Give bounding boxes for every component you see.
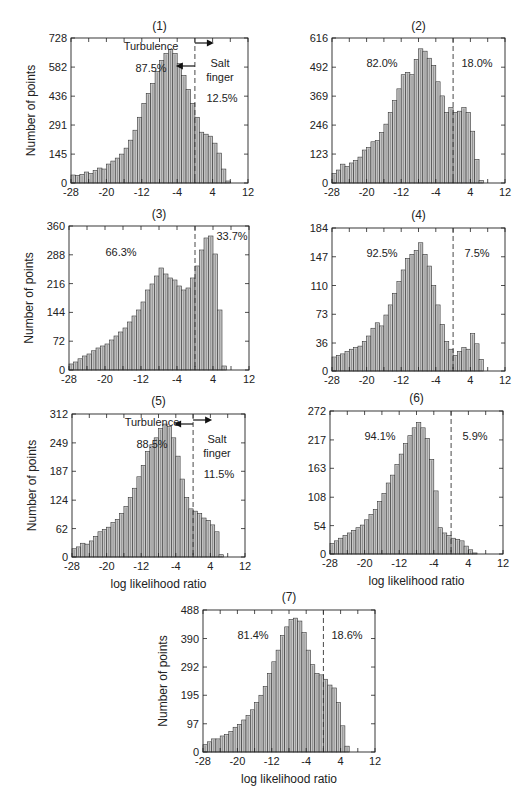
y-tick-label: 728 [49,32,67,44]
left-percent-label: 92.5% [366,247,397,259]
x-tick-label: 4 [210,373,216,385]
x-tick-label: -12 [264,755,280,767]
y-tick-label: 184 [310,222,328,234]
histogram-panel-7: -28-20-12-4412097195292390488(7)Number o… [156,590,381,786]
y-tick-label: 0 [61,177,67,189]
x-tick-label: -20 [98,186,114,198]
figure-canvas: -28-20-12-44120145291436582728(1)Number … [0,0,530,812]
histogram-panel-1: -28-20-12-44120145291436582728(1)Number … [24,19,254,198]
salt-label: Salt [208,433,227,445]
x-tick-label: -12 [133,373,149,385]
y-tick-label: 123 [310,148,328,160]
y-tick-label: 187 [50,465,68,477]
x-tick-label: 4 [467,374,473,386]
y-tick-label: 36 [316,337,328,349]
x-tick-label: 12 [369,755,381,767]
x-tick-label: 12 [497,557,509,569]
y-tick-label: 0 [322,365,328,377]
y-axis-label: Number of points [25,440,39,531]
y-tick-label: 62 [56,523,68,535]
turbulence-label: Turbulence [125,416,180,428]
y-tick-label: 312 [50,408,68,420]
y-tick-label: 360 [47,220,65,232]
y-tick-label: 249 [50,437,68,449]
right-arrow-icon [205,417,212,424]
salt-finger-percent: 11.5% [204,468,235,480]
x-tick-label: -20 [359,186,375,198]
y-tick-label: 246 [310,119,328,131]
y-tick-label: 0 [320,548,326,560]
x-tick-label: 4 [338,755,344,767]
turbulence-percent: 87.5% [135,62,166,74]
histogram-panel-4: -28-20-12-441203673110147184(4)92.5%7.5% [310,208,511,386]
histogram-bars [69,236,227,370]
y-tick-label: 488 [181,604,199,616]
x-tick-label: 4 [467,186,473,198]
turbulence-percent: 88.5% [136,438,167,450]
y-tick-label: 147 [310,251,328,263]
salt-finger-percent: 12.5% [206,92,237,104]
x-tick-label: 12 [242,186,254,198]
y-tick-label: 369 [310,90,328,102]
y-tick-label: 195 [181,689,199,701]
x-tick-label: 4 [207,560,213,572]
y-tick-label: 72 [53,335,65,347]
y-tick-label: 292 [181,661,199,673]
y-tick-label: 0 [193,746,199,758]
y-tick-label: 110 [310,280,328,292]
x-tick-label: 4 [210,186,216,198]
y-tick-label: 291 [49,119,67,131]
right-percent-label: 33.7% [216,230,247,242]
y-tick-label: 124 [50,494,68,506]
x-tick-label: 4 [465,557,471,569]
histogram-panel-6: -28-20-12-4412054108163217272(6)log like… [308,391,509,588]
x-tick-label: -12 [391,557,407,569]
x-tick-label: -4 [431,374,441,386]
y-axis-label: Number of points [156,635,170,726]
x-tick-label: -4 [171,560,181,572]
y-tick-label: 54 [314,520,326,532]
y-tick-label: 0 [322,177,328,189]
y-tick-label: 97 [187,718,199,730]
y-tick-label: 108 [308,491,326,503]
right-percent-label: 7.5% [464,247,489,259]
x-tick-label: -4 [431,186,441,198]
finger-label: finger [206,71,234,83]
y-tick-label: 272 [308,405,326,417]
histogram-bars [330,423,477,554]
left-percent-label: 81.4% [237,629,268,641]
right-percent-label: 5.9% [462,430,487,442]
y-axis-label: Number of points [22,252,36,343]
x-tick-label: 12 [239,560,251,572]
y-tick-label: 390 [181,633,199,645]
x-tick-label: -4 [429,557,439,569]
y-tick-label: 288 [47,249,65,261]
left-percent-label: 82.0% [366,57,397,69]
panel-title: (3) [152,207,167,221]
y-tick-label: 0 [59,364,65,376]
histogram-bars [332,243,483,371]
panel-title: (6) [409,391,424,405]
panel-title: (4) [411,208,426,222]
y-tick-label: 616 [310,32,328,44]
right-percent-label: 18.0% [461,57,492,69]
y-tick-label: 145 [49,148,67,160]
x-axis-label: log likelihood ratio [241,772,337,786]
y-tick-label: 582 [49,61,67,73]
y-tick-label: 216 [47,278,65,290]
salt-label: Salt [211,57,230,69]
y-tick-label: 73 [316,308,328,320]
left-percent-label: 66.3% [105,246,136,258]
histogram-panel-3: -28-20-12-4412072144216288360(3)Number o… [22,207,255,385]
histogram-bars [203,618,349,752]
x-tick-label: 12 [499,186,511,198]
x-tick-label: -20 [99,560,115,572]
x-tick-label: -20 [357,557,373,569]
x-tick-label: -4 [172,373,182,385]
right-percent-label: 18.6% [331,629,362,641]
y-tick-label: 217 [308,434,326,446]
y-tick-label: 163 [308,462,326,474]
finger-label: finger [203,447,231,459]
panel-title: (1) [152,19,167,33]
y-tick-label: 0 [62,551,68,563]
